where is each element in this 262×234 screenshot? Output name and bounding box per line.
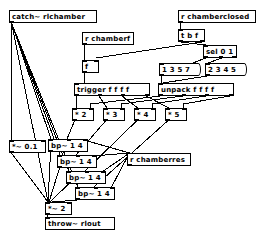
object-multiply-5[interactable]: * 5 [165, 108, 187, 121]
outlet-nub-1[interactable] [159, 94, 163, 96]
inlet-nub[interactable] [179, 29, 183, 31]
wire-mult2-bp1 [67, 121, 75, 139]
inlet-nub-freq[interactable] [76, 155, 80, 157]
object-r-chamberres[interactable]: r chamberres [127, 153, 191, 166]
outlet-nub-1[interactable] [204, 56, 208, 58]
outlet-nub-2[interactable] [219, 56, 223, 58]
outlet-nub[interactable] [67, 182, 71, 184]
object-throw-rlout[interactable]: throw~ rlout [45, 217, 115, 230]
inlet-nub-freq[interactable] [67, 139, 71, 141]
inlet-nub-right[interactable] [94, 60, 98, 62]
object-trigger-bang-float[interactable]: t b f [178, 29, 205, 42]
inlet-nub-right[interactable] [89, 108, 93, 110]
inlet-nub-signal[interactable] [49, 139, 53, 141]
object-r-chamberclosed[interactable]: r chamberclosed [178, 10, 256, 23]
outlet-nub[interactable] [58, 166, 62, 168]
object-signal-multiply-0-1[interactable]: *~ 0.1 [9, 140, 46, 153]
object-r-chamberf[interactable]: r chamberf [82, 32, 134, 45]
inlet-nub[interactable] [159, 83, 163, 85]
outlet-nub-2[interactable] [182, 94, 186, 96]
outlet-nub-3[interactable] [121, 94, 125, 96]
outlet-nub-1[interactable] [75, 94, 79, 96]
inlet-nub-freq[interactable] [94, 187, 98, 189]
outlet-nub[interactable] [83, 43, 87, 45]
inlet-nub-left[interactable] [10, 140, 14, 142]
inlet-nub-left[interactable] [104, 108, 108, 110]
outlet-nub-4[interactable] [145, 94, 149, 96]
inlet-nub[interactable] [160, 63, 164, 65]
inlet-nub-left[interactable] [83, 60, 87, 62]
object-label: r chamberres [130, 156, 185, 165]
inlet-nub[interactable] [46, 217, 50, 219]
inlet-nub-left[interactable] [135, 108, 139, 110]
wire-multsig01-multsig2 [12, 153, 49, 202]
inlet-nub[interactable] [206, 63, 210, 65]
wire-unpack-mult4 [152, 96, 206, 108]
object-label: r chamberclosed [181, 13, 250, 22]
outlet-nub-2[interactable] [200, 40, 204, 42]
inlet-nub-right[interactable] [182, 108, 186, 110]
inlet-nub-right[interactable] [67, 202, 71, 204]
object-label: *~ 0.1 [12, 143, 38, 152]
object-trigger[interactable]: trigger f f f f [74, 83, 150, 96]
outlet-nub[interactable] [83, 71, 87, 73]
object-bandpass-1[interactable]: bp~ 1 4 [48, 139, 88, 152]
object-multiply-4[interactable]: * 4 [134, 108, 156, 121]
inlet-nub-signal[interactable] [67, 171, 71, 173]
inlet-nub-right[interactable] [151, 108, 155, 110]
object-bandpass-2[interactable]: bp~ 1 4 [57, 155, 97, 168]
object-signal-multiply-2[interactable]: *~ 2 [45, 202, 72, 215]
wire-trigger-mult5 [146, 96, 169, 108]
object-float[interactable]: f [82, 60, 99, 73]
outlet-nub[interactable] [10, 151, 14, 153]
wire-unpack-mult3 [121, 96, 183, 108]
object-label: t b f [181, 32, 198, 41]
message-1-3-5-7[interactable]: 1 3 5 7 [159, 63, 197, 76]
wire-rres-bp1 [84, 140, 130, 153]
outlet-nub-3[interactable] [232, 56, 236, 58]
outlet-nub[interactable] [128, 164, 132, 166]
outlet-nub-4[interactable] [229, 94, 233, 96]
outlet-nub[interactable] [179, 21, 183, 23]
inlet-nub-right[interactable] [41, 140, 45, 142]
inlet-nub-q[interactable] [92, 155, 96, 157]
outlet-nub[interactable] [166, 119, 170, 121]
inlet-nub-q[interactable] [110, 187, 114, 189]
object-multiply-3[interactable]: * 3 [103, 108, 125, 121]
object-select-0-1[interactable]: sel 0 1 [203, 45, 237, 58]
outlet-nub[interactable] [160, 74, 164, 76]
inlet-nub-signal[interactable] [58, 155, 62, 157]
object-bandpass-3[interactable]: bp~ 1 4 [66, 171, 106, 184]
outlet-nub[interactable] [206, 74, 210, 76]
wire-catch-bp2 [12, 23, 61, 155]
inlet-nub-left[interactable] [46, 202, 50, 204]
object-label: bp~ 1 4 [69, 174, 101, 183]
inlet-nub-q[interactable] [101, 171, 105, 173]
outlet-nub-3[interactable] [205, 94, 209, 96]
wire-unpack-mult5 [183, 96, 230, 108]
inlet-nub-signal[interactable] [76, 187, 80, 189]
inlet-nub[interactable] [75, 83, 79, 85]
inlet-nub-left[interactable] [73, 108, 77, 110]
outlet-nub[interactable] [46, 213, 50, 215]
outlet-nub[interactable] [135, 119, 139, 121]
inlet-nub[interactable] [204, 45, 208, 47]
inlet-nub-q[interactable] [83, 139, 87, 141]
inlet-nub-freq[interactable] [85, 171, 89, 173]
message-2-3-4-5[interactable]: 2 3 4 5 [205, 63, 243, 76]
outlet-nub-2[interactable] [98, 94, 102, 96]
outlet-nub[interactable] [49, 150, 53, 152]
pd-patch-canvas[interactable]: catch~ rlchamber r chamberf f trigger f … [0, 0, 262, 234]
object-multiply-2[interactable]: * 2 [72, 108, 94, 121]
object-label: r chamberf [85, 35, 130, 44]
object-bandpass-4[interactable]: bp~ 1 4 [75, 187, 115, 200]
outlet-nub[interactable] [104, 119, 108, 121]
outlet-nub[interactable] [10, 21, 14, 23]
object-catch-rlchamber[interactable]: catch~ rlchamber [9, 10, 97, 23]
outlet-nub-1[interactable] [179, 40, 183, 42]
outlet-nub[interactable] [76, 198, 80, 200]
inlet-nub-right[interactable] [120, 108, 124, 110]
outlet-nub[interactable] [73, 119, 77, 121]
inlet-nub-left[interactable] [166, 108, 170, 110]
object-unpack[interactable]: unpack f f f f [158, 83, 234, 96]
